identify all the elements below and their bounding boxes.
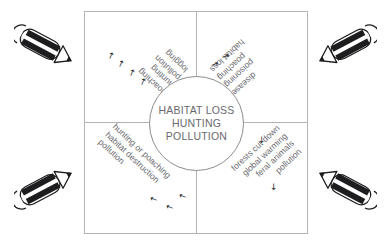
diagram-canvas: poaching hunting pollution logging ↑ ↑ ↑… [0, 0, 391, 248]
pencil-icon-top-left [14, 22, 78, 74]
center-line-1: HABITAT LOSS [159, 104, 235, 117]
center-circle: HABITAT LOSS HUNTING POLLUTION [149, 76, 244, 171]
center-line-2: HUNTING [172, 117, 221, 130]
pencil-icon-top-right [313, 22, 377, 74]
center-line-3: POLLUTION [166, 130, 227, 143]
pencil-icon-bottom-right [313, 160, 377, 212]
pencil-icon-bottom-left [14, 160, 78, 212]
